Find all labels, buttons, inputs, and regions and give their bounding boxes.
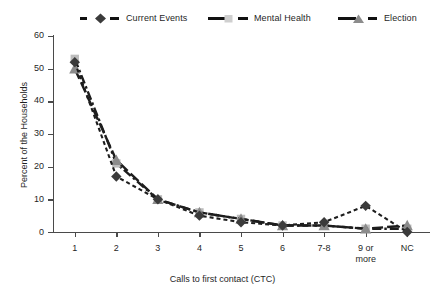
y-axis-tick bbox=[48, 69, 54, 70]
y-axis-tick bbox=[48, 232, 54, 233]
series-line bbox=[75, 69, 407, 229]
y-axis-tick bbox=[48, 167, 54, 168]
y-axis-tick bbox=[48, 134, 54, 135]
diamond-marker bbox=[111, 171, 121, 181]
series-line bbox=[75, 62, 407, 232]
series-line bbox=[75, 59, 407, 229]
y-axis-tick bbox=[48, 199, 54, 200]
y-axis-tick bbox=[48, 36, 54, 37]
chart-series-layer bbox=[0, 0, 445, 300]
diamond-marker bbox=[360, 201, 370, 211]
series-current-events bbox=[70, 57, 413, 237]
chart-figure: Current Events Mental Health bbox=[0, 0, 445, 300]
y-axis-tick bbox=[48, 101, 54, 102]
series-mental-health bbox=[71, 55, 412, 233]
